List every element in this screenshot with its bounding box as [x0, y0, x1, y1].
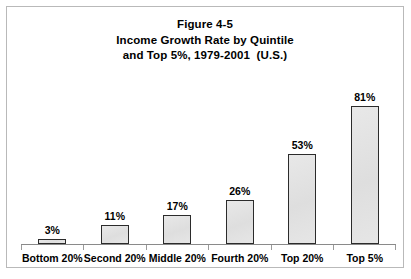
bar-slot-second-20: 11%	[84, 77, 147, 244]
axis-tick	[208, 245, 209, 250]
bar-value-label: 17%	[167, 201, 188, 212]
category-label-top-5: Top 5%	[334, 252, 397, 265]
category-label-top-20: Top 20%	[271, 252, 334, 265]
category-label-bottom-20: Bottom 20%	[21, 252, 84, 265]
category-label-fourth-20: Fourth 20%	[209, 252, 272, 265]
axis-tick	[21, 245, 22, 250]
bar-value-label: 3%	[45, 225, 60, 236]
figure-frame: Figure 4-5 Income Growth Rate by Quintil…	[6, 6, 404, 268]
bar-slot-middle-20: 17%	[146, 77, 209, 244]
title-line-2: Income Growth Rate by Quintile	[7, 33, 403, 49]
bar-slot-top-5: 81%	[334, 77, 397, 244]
bar-middle-20	[163, 215, 191, 244]
bar-value-label: 81%	[354, 92, 375, 103]
bar-slot-top-20: 53%	[271, 77, 334, 244]
bar-top-20	[288, 154, 316, 244]
title-line-3: and Top 5%, 1979-2001 (U.S.)	[7, 48, 403, 64]
axis-tick	[83, 245, 84, 250]
axis-tick	[146, 245, 147, 250]
bar-value-label: 53%	[292, 140, 313, 151]
bar-second-20	[101, 225, 129, 244]
figure-title: Figure 4-5 Income Growth Rate by Quintil…	[7, 17, 403, 64]
axis-tick	[333, 245, 334, 250]
x-axis-labels: Bottom 20% Second 20% Middle 20% Fourth …	[21, 252, 396, 265]
bar-fourth-20	[226, 200, 254, 244]
bar-value-label: 11%	[105, 211, 125, 222]
bar-slot-fourth-20: 26%	[209, 77, 272, 244]
axis-tick	[395, 245, 396, 250]
axis-tick	[271, 245, 272, 250]
bar-series: 3% 11% 17% 26% 53% 81%	[21, 77, 396, 244]
bar-top-5	[351, 106, 379, 244]
category-label-second-20: Second 20%	[84, 252, 147, 265]
bar-value-label: 26%	[229, 186, 250, 197]
category-label-middle-20: Middle 20%	[146, 252, 209, 265]
plot-area: 3% 11% 17% 26% 53% 81%	[21, 77, 396, 245]
bar-slot-bottom-20: 3%	[21, 77, 84, 244]
x-axis-ticks	[21, 245, 396, 250]
title-line-1: Figure 4-5	[7, 17, 403, 33]
